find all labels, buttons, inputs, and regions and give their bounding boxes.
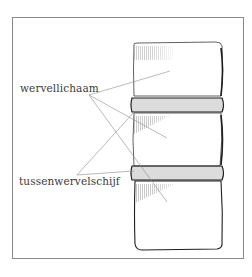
disc-upper bbox=[131, 98, 224, 112]
vertebra-lower bbox=[135, 181, 223, 250]
vertebra-middle bbox=[133, 113, 223, 166]
vertebra-upper bbox=[134, 42, 223, 96]
disc-lower bbox=[131, 166, 224, 180]
label-intervertebral-disc: tussenwervelschijf bbox=[19, 175, 120, 187]
spine-illustration bbox=[0, 0, 252, 277]
leader-lines-disc bbox=[77, 112, 134, 175]
label-vertebral-body: wervellichaam bbox=[20, 82, 99, 94]
